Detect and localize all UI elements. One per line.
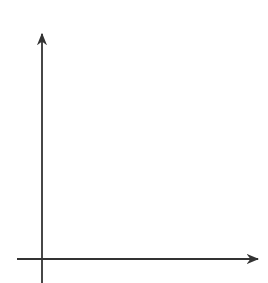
graph [0,0,268,283]
